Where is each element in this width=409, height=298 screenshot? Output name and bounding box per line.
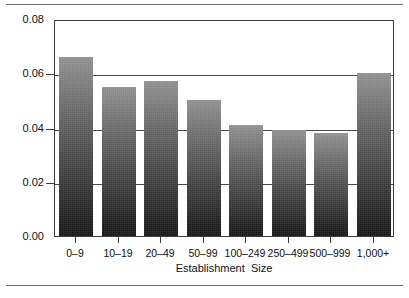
x-axis-tick	[118, 237, 119, 243]
x-axis-tick-label: 250–499	[268, 247, 309, 259]
bar	[314, 133, 348, 236]
y-axis-tick-label: 0.08	[0, 14, 44, 25]
x-axis-tick-label: 50–99	[188, 247, 217, 259]
plot-area	[54, 20, 394, 237]
top-divider-rule	[6, 4, 403, 5]
y-axis-tick	[46, 74, 54, 75]
x-axis-tick	[330, 237, 331, 243]
x-axis-tick	[245, 237, 246, 243]
x-axis-tick-label: 0–9	[66, 247, 84, 259]
x-axis-tick-label: 500–999	[310, 247, 351, 259]
bar	[144, 81, 178, 236]
bar	[357, 73, 391, 236]
x-axis-tick-label: 10–19	[103, 247, 132, 259]
x-axis-tick	[203, 237, 204, 243]
bar	[59, 57, 93, 236]
x-axis-tick	[288, 237, 289, 243]
x-axis-tick	[75, 237, 76, 243]
x-axis-tick-label: 100–249	[225, 247, 266, 259]
x-axis-title: Establishment Size	[54, 262, 394, 275]
y-axis-tick-label: 0.06	[0, 68, 44, 79]
x-axis-tick	[373, 237, 374, 243]
y-axis-tick-label: 0.00	[0, 231, 44, 242]
bar	[229, 125, 263, 236]
bar-series	[55, 21, 393, 236]
bar-chart-figure: 0.000.020.040.060.08 0–910–1920–4950–991…	[0, 0, 409, 298]
bottom-divider-rule	[6, 285, 403, 286]
bar	[272, 130, 306, 236]
x-axis-tick-label: 1,000+	[357, 247, 389, 259]
y-axis-tick-label: 0.02	[0, 177, 44, 188]
x-axis-tick	[160, 237, 161, 243]
y-axis-tick	[46, 183, 54, 184]
y-axis-tick-label: 0.04	[0, 123, 44, 134]
bar	[102, 87, 136, 236]
x-axis-tick-label: 20–49	[145, 247, 174, 259]
y-axis-tick	[46, 129, 54, 130]
bar	[187, 100, 221, 236]
